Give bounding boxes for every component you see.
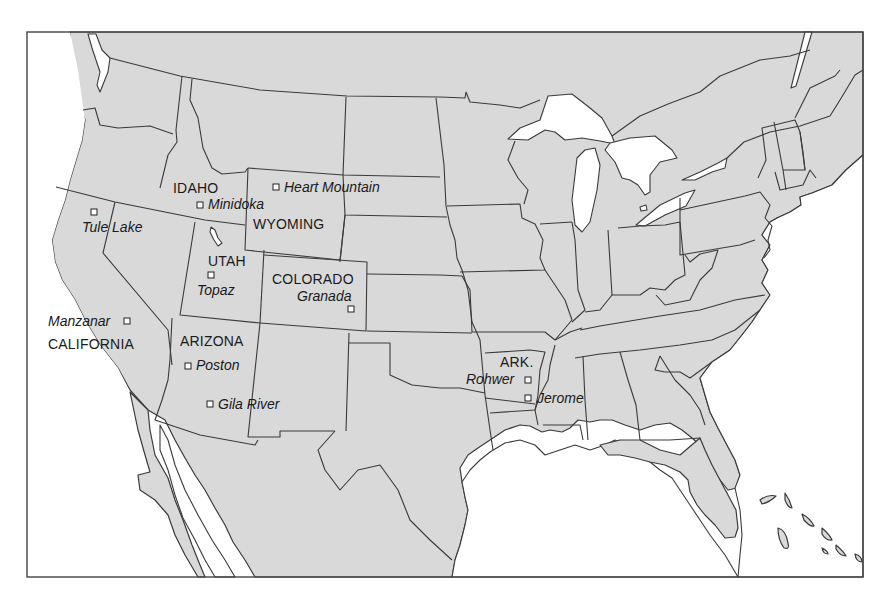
camp-marker-icon xyxy=(273,184,279,190)
camp-gila-river: Gila River xyxy=(207,396,281,412)
camp-label: Poston xyxy=(196,357,240,373)
camp-heart-mountain: Heart Mountain xyxy=(273,179,380,195)
camp-minidoka: Minidoka xyxy=(197,196,264,212)
camp-marker-icon xyxy=(208,272,214,278)
camp-label: Rohwer xyxy=(466,371,516,387)
camp-marker-icon xyxy=(91,209,97,215)
camp-label: Heart Mountain xyxy=(284,179,380,195)
camp-marker-icon xyxy=(348,306,354,312)
camp-marker-icon xyxy=(525,395,531,401)
us-relocation-camps-map: IDAHOWYOMINGUTAHCOLORADOCALIFORNIAARIZON… xyxy=(0,0,889,597)
camp-marker-icon xyxy=(124,318,130,324)
camp-label: Minidoka xyxy=(208,196,264,212)
state-label-colorado: COLORADO xyxy=(272,271,354,287)
state-label-idaho: IDAHO xyxy=(173,180,218,196)
camp-label: Topaz xyxy=(197,282,235,298)
camp-marker-icon xyxy=(185,363,191,369)
camp-label: Manzanar xyxy=(48,313,112,329)
camp-label: Tule Lake xyxy=(82,219,143,235)
state-label-arizona: ARIZONA xyxy=(180,333,244,349)
camp-label: Jerome xyxy=(536,390,584,406)
camp-label: Granada xyxy=(297,288,352,304)
state-label-utah: UTAH xyxy=(208,253,246,269)
camp-label: Gila River xyxy=(218,396,281,412)
state-label-arkansas: ARK. xyxy=(500,354,533,370)
camp-marker-icon xyxy=(197,202,203,208)
camp-marker-icon xyxy=(207,401,213,407)
state-label-california: CALIFORNIA xyxy=(48,336,134,352)
state-label-wyoming: WYOMING xyxy=(253,216,324,232)
camp-marker-icon xyxy=(525,377,531,383)
